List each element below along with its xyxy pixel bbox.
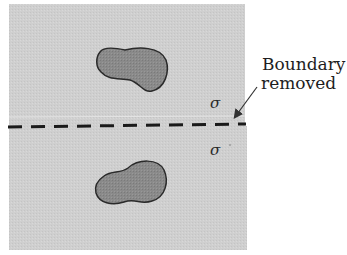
sigma-top-label: σ (210, 94, 221, 112)
sigma-bottom-label: σ (210, 141, 221, 159)
annotation-line2: removed (261, 73, 336, 93)
diagram-canvas: σ σ Boundary removed (0, 0, 347, 255)
speck (229, 144, 231, 146)
annotation-line1: Boundary (262, 54, 346, 74)
